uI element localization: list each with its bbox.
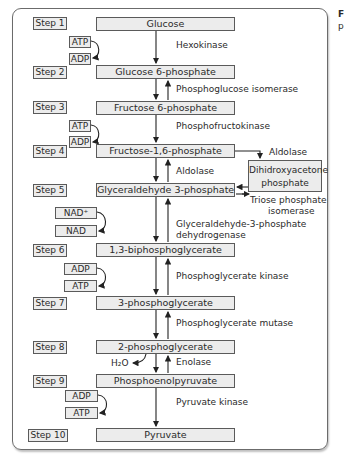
enzyme-phosphoglycerate-kinase: Phosphoglycerate kinase [176, 271, 289, 282]
metabolite-fructose-1-6-phosphate: Fructose-1,6-phosphate [96, 144, 235, 158]
step-6-label: Step 6 [33, 244, 67, 257]
enzyme-gapdh-1: Glyceraldehyde-3-phosphate [176, 219, 306, 230]
cofactor-nad: NAD [55, 225, 97, 237]
cofactor-atp-step9: ATP [65, 407, 98, 419]
step-2-label: Step 2 [33, 66, 67, 79]
cofactor-nad-plus: NAD⁺ [55, 207, 97, 219]
enzyme-phosphofructokinase: Phosphofructokinase [176, 121, 270, 132]
metabolite-phosphoenolpyruvate: Phosphoenolpyruvate [96, 374, 235, 388]
dha-line2: phosphate [249, 177, 321, 190]
enzyme-aldolase-side: Aldolase [269, 147, 307, 158]
enzyme-pyruvate-kinase: Pyruvate kinase [176, 397, 248, 408]
enzyme-phosphoglycerate-mutase: Phosphoglycerate mutase [176, 318, 293, 329]
metabolite-glucose: Glucose [96, 17, 235, 31]
enzyme-hexokinase: Hexokinase [176, 40, 228, 51]
metabolite-dihydroxyacetone-phosphate: Dihidroxyacetone phosphate [248, 160, 322, 192]
cofactor-adp-step1: ADP [69, 53, 91, 65]
step-5-label: Step 5 [33, 184, 67, 197]
cofactor-atp-step6: ATP [64, 280, 97, 292]
step-4-label: Step 4 [33, 145, 67, 158]
step-1-label: Step 1 [33, 17, 67, 30]
enzyme-triose-phosphate-isomerase-2: isomerase [268, 206, 314, 217]
enzyme-gapdh-2: dehydrogenase [176, 230, 246, 241]
metabolite-1-3-biphosphoglycerate: 1,3-biphosphoglycerate [96, 243, 235, 257]
enzyme-phosphoglucose-isomerase: Phosphoglucose isomerase [176, 84, 298, 95]
step-8-label: Step 8 [33, 341, 67, 354]
step-3-label: Step 3 [33, 101, 67, 114]
dha-line1: Dihidroxyacetone [249, 164, 321, 177]
cofactor-atp-step1: ATP [69, 36, 91, 48]
metabolite-fructose-6-phosphate: Fructose 6-phosphate [96, 101, 235, 115]
step-10-label: Step 10 [28, 429, 68, 442]
caption-fragment-2: p [338, 21, 344, 32]
step-7-label: Step 7 [33, 297, 67, 310]
cofactor-water: H₂O [111, 358, 128, 369]
metabolite-glucose-6-phosphate: Glucose 6-phosphate [96, 65, 235, 79]
cofactor-adp-step3: ADP [69, 136, 91, 148]
step-9-label: Step 9 [33, 375, 67, 388]
cofactor-adp-step9: ADP [65, 390, 98, 402]
metabolite-2-phosphoglycerate: 2-phosphoglycerate [96, 340, 235, 354]
caption-fragment-1: F [338, 9, 344, 20]
cofactor-atp-step3: ATP [69, 120, 91, 132]
enzyme-triose-phosphate-isomerase-1: Triose phosphate [250, 195, 327, 206]
metabolite-3-phosphoglycerate: 3-phosphoglycerate [96, 296, 235, 310]
enzyme-aldolase: Aldolase [176, 166, 214, 177]
enzyme-enolase: Enolase [176, 357, 211, 368]
metabolite-pyruvate: Pyruvate [96, 428, 235, 442]
metabolite-glyceraldehyde-3-phosphate: Glyceraldehyde 3-phosphate [96, 183, 235, 197]
cofactor-adp-step6: ADP [64, 263, 97, 275]
